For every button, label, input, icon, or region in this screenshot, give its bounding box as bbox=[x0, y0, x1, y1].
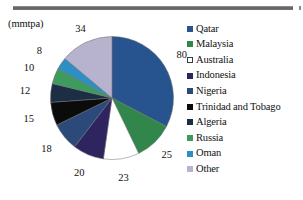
legend-item-trinidad-and-tobago[interactable]: Trinidad and Tobago bbox=[187, 99, 303, 115]
pie-data-label: 25 bbox=[162, 150, 173, 161]
pie-data-label: 80 bbox=[177, 50, 188, 61]
legend-swatch-icon bbox=[187, 88, 193, 94]
legend-swatch-icon bbox=[187, 41, 193, 47]
chart-legend: QatarMalaysiaAustraliaIndonesiaNigeriaTr… bbox=[187, 21, 303, 177]
legend-item-algeria[interactable]: Algeria bbox=[187, 115, 303, 131]
legend-item-label: Oman bbox=[196, 148, 221, 159]
legend-item-other[interactable]: Other bbox=[187, 161, 303, 177]
legend-swatch-icon bbox=[187, 151, 193, 157]
pie-data-label: 34 bbox=[75, 24, 86, 35]
legend-item-label: Malaysia bbox=[196, 39, 233, 50]
legend-item-malaysia[interactable]: Malaysia bbox=[187, 37, 303, 53]
pie-data-label: 10 bbox=[24, 63, 35, 74]
legend-item-label: Other bbox=[196, 164, 219, 175]
legend-item-label: Australia bbox=[196, 55, 233, 66]
legend-item-russia[interactable]: Russia bbox=[187, 130, 303, 146]
top-horizontal-rule bbox=[13, 6, 293, 10]
legend-item-nigeria[interactable]: Nigeria bbox=[187, 83, 303, 99]
legend-item-label: Indonesia bbox=[196, 70, 235, 81]
pie-data-label: 15 bbox=[23, 114, 34, 125]
legend-item-qatar[interactable]: Qatar bbox=[187, 21, 303, 37]
pie-data-label: 23 bbox=[118, 173, 129, 184]
legend-swatch-icon bbox=[187, 26, 193, 32]
legend-swatch-icon bbox=[187, 104, 193, 110]
legend-item-indonesia[interactable]: Indonesia bbox=[187, 68, 303, 84]
pie-data-label: 12 bbox=[20, 86, 31, 97]
legend-swatch-icon bbox=[187, 73, 193, 79]
legend-item-label: Algeria bbox=[196, 117, 226, 128]
legend-swatch-icon bbox=[187, 166, 193, 172]
pie-data-label: 18 bbox=[41, 144, 52, 155]
legend-item-australia[interactable]: Australia bbox=[187, 52, 303, 68]
unit-caption: (mmtpa) bbox=[8, 18, 43, 29]
pie-chart bbox=[50, 36, 174, 160]
legend-item-label: Russia bbox=[196, 133, 223, 144]
legend-swatch-icon bbox=[187, 57, 193, 63]
pie-data-label: 20 bbox=[74, 168, 85, 179]
pie-slice-group bbox=[50, 37, 173, 160]
legend-swatch-icon bbox=[187, 119, 193, 125]
legend-item-oman[interactable]: Oman bbox=[187, 146, 303, 162]
legend-item-label: Trinidad and Tobago bbox=[196, 102, 281, 113]
legend-item-label: Qatar bbox=[196, 24, 219, 35]
pie-data-label: 8 bbox=[37, 46, 42, 57]
legend-item-label: Nigeria bbox=[196, 86, 226, 97]
right-edge-tick bbox=[299, 6, 301, 10]
legend-swatch-icon bbox=[187, 135, 193, 141]
pie-chart-svg bbox=[50, 36, 174, 160]
